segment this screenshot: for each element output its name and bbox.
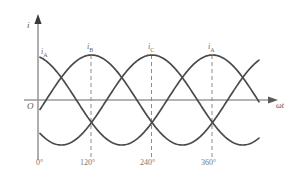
tick-label-0: 0° bbox=[36, 158, 43, 167]
curve-label-i-a-2: iA bbox=[208, 42, 215, 53]
curve-label-i-c: iC bbox=[148, 42, 154, 53]
y-axis-label: i bbox=[27, 20, 30, 30]
y-axis bbox=[34, 14, 41, 160]
tick-label-240: 240° bbox=[140, 158, 155, 167]
curve-label-sub: A bbox=[210, 47, 214, 53]
curve-label-i-b: iB bbox=[87, 42, 93, 53]
tick-label-120: 120° bbox=[80, 158, 95, 167]
three-phase-waveform-plot bbox=[0, 0, 297, 176]
tick-label-360: 360° bbox=[201, 158, 216, 167]
curve-label-sub: A bbox=[43, 52, 47, 58]
y-axis-arrow bbox=[34, 14, 41, 24]
curve-label-i-a-1: iA bbox=[41, 47, 48, 58]
curve-label-sub: B bbox=[89, 47, 93, 53]
x-axis-label: ωt bbox=[276, 101, 284, 110]
waveform-figure: i ωt O iA iB iC iA 0° 120° 240° 360° bbox=[0, 0, 297, 176]
origin-label: O bbox=[27, 101, 34, 111]
curve-label-sub: C bbox=[150, 47, 154, 53]
